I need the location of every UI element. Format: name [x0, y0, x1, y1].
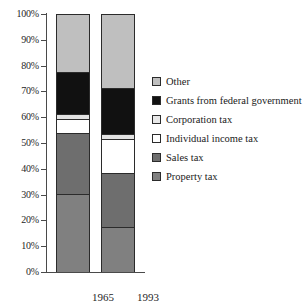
legend-label-corporation-tax: Corporation tax [166, 114, 232, 126]
segment-1993-property-tax[interactable] [102, 228, 134, 272]
legend-label-sales-tax: Sales tax [166, 152, 204, 164]
segment-1993-other[interactable] [102, 14, 134, 89]
legend-item-grants-from-federal-government[interactable]: Grants from federal government [152, 91, 304, 110]
legend-item-other[interactable]: Other [152, 72, 304, 91]
legend-item-sales-tax[interactable]: Sales tax [152, 148, 304, 167]
legend-item-corporation-tax[interactable]: Corporation tax [152, 110, 304, 129]
segment-1993-individual-income-tax[interactable] [102, 140, 134, 174]
legend-swatch-property-tax [152, 172, 161, 181]
legend-label-other: Other [166, 76, 190, 88]
legend-item-property-tax[interactable]: Property tax [152, 167, 304, 186]
legend-label-property-tax: Property tax [166, 171, 218, 183]
x-axis-label-1993: 1993 [118, 291, 178, 303]
legend-swatch-corporation-tax [152, 115, 161, 124]
bar-1993[interactable] [101, 14, 135, 272]
y-tick-label-40: 40% [21, 164, 39, 174]
y-tick-label-80: 80% [21, 61, 39, 71]
x-axis-line [46, 272, 145, 273]
segment-1965-property-tax[interactable] [57, 195, 89, 272]
legend-swatch-individual-income-tax [152, 134, 161, 143]
segment-1993-sales-tax[interactable] [102, 174, 134, 228]
y-tick-label-20: 20% [21, 215, 39, 225]
legend-swatch-grants-from-federal-government [152, 96, 161, 105]
legend-label-individual-income-tax: Individual income tax [166, 133, 258, 145]
y-tick-label-30: 30% [21, 190, 39, 200]
y-tick-label-60: 60% [21, 112, 39, 122]
y-tick-label-0: 0% [26, 267, 39, 277]
segment-1993-grants-from-federal-government[interactable] [102, 89, 134, 135]
segment-1965-individual-income-tax[interactable] [57, 120, 89, 134]
y-tick-0 [41, 272, 46, 273]
legend-swatch-sales-tax [152, 153, 161, 162]
y-tick-label-90: 90% [21, 35, 39, 45]
y-tick-label-100: 100% [16, 9, 39, 19]
legend-label-grants-from-federal-government: Grants from federal government [166, 95, 302, 107]
legend-swatch-other [152, 77, 161, 86]
segment-1965-sales-tax[interactable] [57, 134, 89, 195]
segment-1965-grants-from-federal-government[interactable] [57, 73, 89, 114]
plot-area: 1965 1993 [46, 14, 145, 272]
segment-1965-other[interactable] [57, 14, 89, 73]
legend-item-individual-income-tax[interactable]: Individual income tax [152, 129, 304, 148]
chart-legend: Other Grants from federal government Cor… [152, 72, 304, 186]
y-tick-label-10: 10% [21, 241, 39, 251]
bar-1965[interactable] [56, 14, 90, 272]
stacked-bar-chart: 100% 90% 80% 70% 60% 50% 40% 30% 20% 10%… [0, 0, 305, 307]
y-tick-label-70: 70% [21, 86, 39, 96]
y-tick-label-50: 50% [21, 138, 39, 148]
